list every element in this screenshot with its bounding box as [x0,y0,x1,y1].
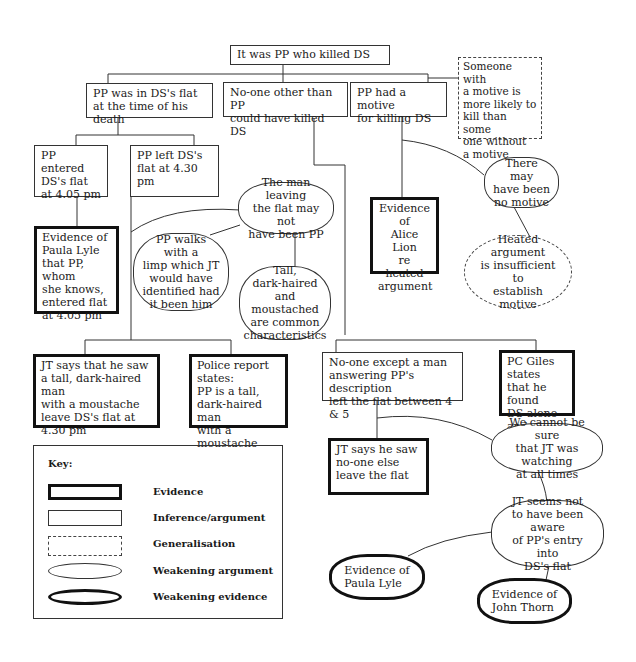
legend: Key: Evidence Inference/argument General… [33,445,283,619]
claim-text: PP left DS's flat at 4.30 pm [137,149,212,188]
weakening-man-leaving: The man leaving the flat may not have be… [238,182,334,234]
weakening-text: Tall, dark-haired and moustached are com… [244,264,327,342]
weakening-evidence-paula-lyle: Evidence of Paula Lyle [329,554,425,600]
legend-label: Inference/argument [153,512,265,523]
claim-entered: PP entered DS's flat at 4.05 pm [34,145,108,197]
weakening-text: The man leaving the flat may not have be… [247,176,325,241]
claim-motive: PP had a motive for killing DS [350,82,447,117]
argument-diagram: It was PP who killed DS PP was in DS's f… [0,0,636,662]
evidence-text: JT says that he saw a tall, dark-haired … [41,359,152,437]
weakening-generalisation-heated: Heated argument is insufficient to estab… [464,235,572,309]
claim-left: PP left DS's flat at 4.30 pm [130,145,219,197]
weakening-evidence-john-thorn: Evidence of John Thorn [477,578,572,624]
claim-pp-in-flat: PP was in DS's flat at the time of his d… [86,83,213,118]
claim-text: PP was in DS's flat at the time of his d… [93,87,206,126]
evidence-text: Evidence of Paula Lyle that PP, whom she… [42,231,111,322]
evidence-jt-no-one-else: JT says he saw no-one else leave the fla… [328,438,429,495]
legend-label: Evidence [153,486,203,497]
root-claim-text: It was PP who killed DS [237,48,383,61]
weakening-text: We cannot be sure that JT was watching a… [500,416,594,481]
evidence-jt-saw: JT says that he saw a tall, dark-haired … [33,354,160,428]
thick-ellipse-icon [48,589,122,605]
thin-rectangle-icon [48,510,122,526]
evidence-paula-lyle: Evidence of Paula Lyle that PP, whom she… [34,226,119,314]
legend-item-inference: Inference/argument [48,510,278,528]
evidence-pc-giles: PC Giles states that he found DS alone a… [499,350,575,416]
dashed-rectangle-icon [48,536,122,556]
legend-label: Generalisation [153,538,235,549]
weakening-no-motive: There may have been no motive [484,157,559,208]
weakening-text: PP walks with a limp which JT would have… [142,233,220,311]
thick-rectangle-icon [48,484,122,500]
weakening-text: Heated argument is insufficient to estab… [475,233,561,311]
weakening-common-characteristics: Tall, dark-haired and moustached are com… [239,266,331,340]
thin-ellipse-icon [48,563,122,579]
weakening-text: JT seems not to have been aware of PP's … [500,495,595,573]
evidence-police-report: Police report states: PP is a tall, dark… [189,354,288,428]
claim-no-one-other: No-one other than PP could have killed D… [223,82,348,117]
weakening-text: There may have been no motive [493,157,550,209]
legend-title: Key: [48,458,72,469]
weakening-evidence-text: Evidence of Paula Lyle [344,564,409,590]
evidence-text: Evidence of Alice Lion re heated argumen… [378,202,431,293]
claim-no-one-except: No-one except a man answering PP's descr… [322,352,463,401]
legend-item-weakening-argument: Weakening argument [48,563,278,581]
claim-text: PP had a motive for killing DS [357,86,440,125]
generalisation-motive: Someone with a motive is more likely to … [458,57,542,139]
weakening-evidence-text: Evidence of John Thorn [492,588,557,614]
legend-item-evidence: Evidence [48,484,278,502]
weakening-limp: PP walks with a limp which JT would have… [133,233,229,311]
claim-text: No-one other than PP could have killed D… [230,86,341,138]
legend-item-weakening-evidence: Weakening evidence [48,589,278,607]
generalisation-text: Someone with a motive is more likely to … [463,60,537,160]
root-claim: It was PP who killed DS [230,45,390,65]
claim-text: PP entered DS's flat at 4.05 pm [41,149,101,201]
weakening-jt-unaware: JT seems not to have been aware of PP's … [491,500,604,567]
evidence-text: JT says he saw no-one else leave the fla… [336,443,421,482]
claim-text: No-one except a man answering PP's descr… [329,356,456,421]
legend-label: Weakening evidence [153,591,267,602]
evidence-alice-lion: Evidence of Alice Lion re heated argumen… [370,197,439,274]
weakening-cannot-be-sure: We cannot be sure that JT was watching a… [491,423,603,473]
legend-label: Weakening argument [153,565,273,576]
evidence-text: Police report states: PP is a tall, dark… [197,359,280,450]
legend-item-generalisation: Generalisation [48,536,278,554]
